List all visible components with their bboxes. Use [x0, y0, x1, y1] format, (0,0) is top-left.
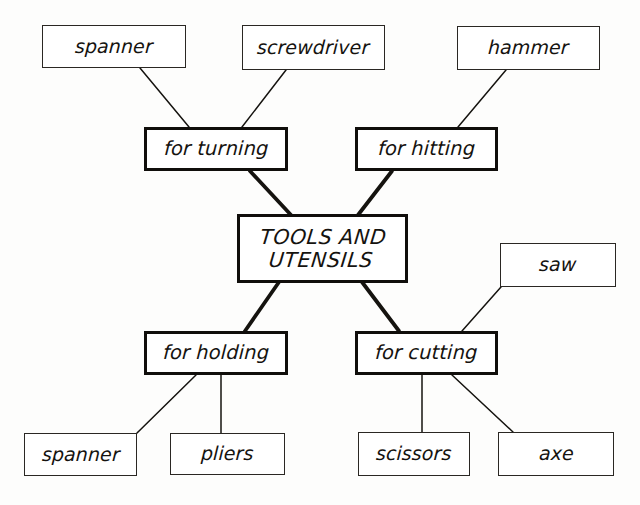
leaf-node-label: scissors — [372, 443, 457, 464]
connector-edge-holding-spanner — [137, 375, 196, 433]
branch-node-for-holding[interactable]: for holding — [144, 331, 288, 375]
leaf-node-hammer[interactable]: hammer — [457, 26, 600, 70]
branch-node-label: for turning — [159, 138, 273, 160]
connector-edge-hammer-hitting — [458, 70, 506, 127]
branch-node-label: for holding — [158, 342, 274, 364]
leaf-node-label: saw — [535, 254, 582, 275]
connector-edge-spanner-turning — [140, 68, 189, 127]
center-node-label: TOOLS AND UTENSILS — [253, 226, 392, 272]
leaf-node-label: pliers — [197, 443, 259, 464]
branch-node-for-cutting[interactable]: for cutting — [355, 331, 498, 375]
branch-node-for-turning[interactable]: for turning — [144, 127, 288, 171]
branch-node-for-hitting[interactable]: for hitting — [355, 127, 498, 171]
connector-edge-saw-cutting — [462, 287, 501, 331]
leaf-node-axe[interactable]: axe — [498, 432, 614, 476]
leaf-node-label: hammer — [484, 37, 574, 58]
connector-edge-hitting-center — [358, 171, 392, 215]
leaf-node-saw[interactable]: saw — [500, 243, 616, 287]
leaf-node-label: screwdriver — [253, 37, 375, 58]
leaf-node-label: axe — [534, 443, 578, 464]
leaf-node-spanner-holding[interactable]: spanner — [24, 433, 137, 476]
branch-node-label: for hitting — [373, 138, 479, 160]
connector-edge-center-holding — [245, 282, 279, 331]
mindmap-canvas: TOOLS AND UTENSILSfor turningfor hitting… — [0, 0, 640, 505]
connector-edge-screwdriver-turning — [242, 70, 286, 127]
connector-edge-cutting-axe — [452, 375, 513, 432]
center-node-center[interactable]: TOOLS AND UTENSILS — [237, 214, 408, 283]
leaf-node-screwdriver[interactable]: screwdriver — [242, 25, 385, 70]
connector-edge-center-cutting — [362, 282, 399, 331]
leaf-node-pliers[interactable]: pliers — [170, 433, 285, 475]
leaf-node-label: spanner — [70, 36, 157, 57]
leaf-node-scissors[interactable]: scissors — [358, 432, 470, 476]
connector-edge-turning-center — [250, 171, 291, 215]
leaf-node-label: spanner — [37, 444, 124, 465]
leaf-node-spanner-turning[interactable]: spanner — [42, 25, 186, 68]
branch-node-label: for cutting — [371, 342, 483, 364]
